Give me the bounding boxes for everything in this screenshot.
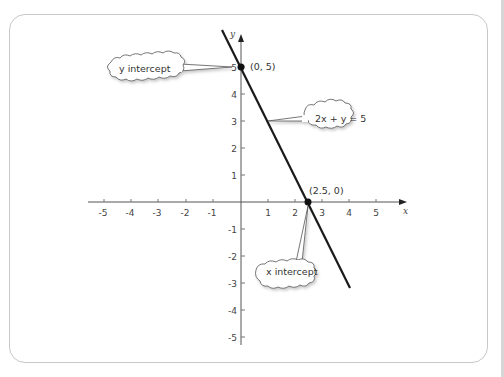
x-tick-label: -5	[99, 208, 108, 218]
x-tick-label: 1	[265, 208, 271, 218]
y-axis-arrow-icon	[238, 34, 244, 42]
y-tick-label: 4	[231, 90, 237, 100]
y-tick-label: -1	[228, 225, 237, 235]
point-x-intercept	[305, 199, 312, 206]
y-tick-label: -4	[228, 306, 237, 316]
y-tick-label: -2	[228, 252, 237, 262]
y-tick-label: -5	[228, 333, 237, 343]
y-tick-label: 2	[231, 144, 237, 154]
x-tick-label: 2	[292, 208, 298, 218]
callout-equation-text: 2x + y = 5	[315, 113, 366, 124]
x-axis-label: x	[403, 206, 408, 216]
x-tick-label: -2	[181, 208, 190, 218]
x-tick-label: 3	[319, 208, 325, 218]
x-axis: -5 -4 -3 -2 -1 1 2 3 4 5 x	[88, 199, 408, 218]
point-y-intercept-label: (0, 5)	[250, 61, 276, 72]
point-x-intercept-label: (2.5, 0)	[309, 185, 344, 196]
y-axis-label: y	[229, 29, 236, 39]
y-tick-label: 3	[231, 117, 237, 127]
x-tick-label: -3	[153, 208, 162, 218]
callout-x-intercept-text: x intercept	[266, 266, 318, 277]
chart-canvas: -5 -4 -3 -2 -1 1 2 3 4 5 x	[0, 0, 504, 377]
x-tick-label: -4	[126, 208, 135, 218]
point-y-intercept	[238, 64, 245, 71]
x-axis-arrow-icon	[399, 199, 407, 205]
callout-y-intercept-text: y intercept	[119, 63, 171, 74]
y-tick-label: 5	[231, 63, 237, 73]
x-tick-label: 4	[346, 208, 352, 218]
x-tick-label: -1	[208, 208, 217, 218]
y-tick-label: 1	[231, 171, 237, 181]
y-axis: 5 4 3 2 1 -1 -2 -3 -4 -5 y	[228, 29, 245, 345]
y-tick-label: -3	[228, 279, 237, 289]
x-tick-label: 5	[373, 208, 379, 218]
